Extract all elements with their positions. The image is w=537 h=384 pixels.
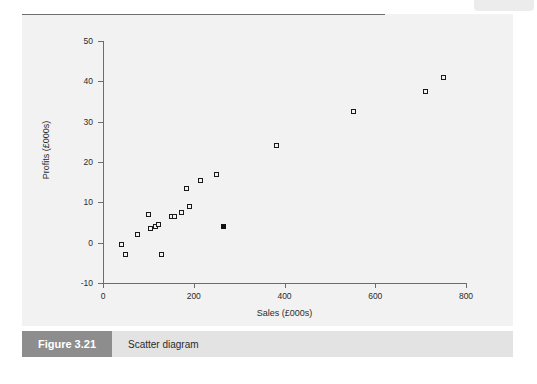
scatter-point-marker	[146, 212, 151, 217]
scatter-plot-area: -1001020304050 0200400600800 Sales (£000…	[22, 14, 513, 326]
x-axis-tick-label: 200	[174, 291, 214, 301]
y-axis-tick-label: -10	[67, 278, 93, 288]
x-axis-tick-label: 0	[83, 291, 123, 301]
y-axis-tick	[98, 243, 103, 244]
y-axis-tick-label: 40	[67, 76, 93, 86]
y-axis-tick	[98, 162, 103, 163]
scatter-point-marker	[172, 214, 177, 219]
scatter-point-marker	[184, 186, 189, 191]
page-edge-artifact	[474, 0, 534, 11]
scatter-point-marker	[221, 224, 226, 229]
x-axis-tick-label: 800	[446, 291, 486, 301]
scatter-point-marker	[423, 89, 428, 94]
figure-panel: -1001020304050 0200400600800 Sales (£000…	[22, 14, 513, 326]
scatter-point-marker	[214, 172, 219, 177]
x-axis-tick	[194, 283, 195, 288]
scatter-point-marker	[156, 222, 161, 227]
y-axis-tick	[98, 41, 103, 42]
scatter-point-marker	[198, 178, 203, 183]
scatter-point-marker	[119, 242, 124, 247]
scatter-point-marker	[135, 232, 140, 237]
scatter-point-marker	[159, 252, 164, 257]
y-axis-line	[103, 41, 104, 284]
y-axis-tick	[98, 122, 103, 123]
x-axis-title: Sales (£000s)	[103, 308, 466, 318]
x-axis-tick	[375, 283, 376, 288]
y-axis-tick-label: 30	[67, 117, 93, 127]
y-axis-tick-label: 50	[67, 36, 93, 46]
scatter-point-marker	[123, 252, 128, 257]
x-axis-tick-label: 600	[355, 291, 395, 301]
y-axis-tick-label: 20	[67, 157, 93, 167]
x-axis-tick	[466, 283, 467, 288]
x-axis-tick	[285, 283, 286, 288]
figure-number-badge: Figure 3.21	[22, 331, 112, 357]
zero-reference-line	[22, 14, 385, 15]
y-axis-tick-label: 10	[67, 197, 93, 207]
x-axis-tick	[103, 283, 104, 288]
scatter-point-marker	[274, 143, 279, 148]
scatter-point-marker	[441, 75, 446, 80]
x-axis-tick-label: 400	[265, 291, 305, 301]
y-axis-title: Profits (£000s)	[41, 100, 51, 200]
scatter-point-marker	[187, 204, 192, 209]
scatter-point-marker	[179, 210, 184, 215]
y-axis-tick	[98, 202, 103, 203]
y-axis-tick-label: 0	[67, 238, 93, 248]
y-axis-tick	[98, 81, 103, 82]
figure-caption: Scatter diagram	[128, 331, 199, 357]
scatter-point-marker	[351, 109, 356, 114]
